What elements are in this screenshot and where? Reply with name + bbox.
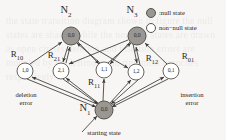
column-label-n3-text: N: [126, 4, 134, 15]
figure-canvas: the state transition diagram shown in fi…: [0, 0, 226, 140]
annotation-insertion-error-line1: insertion: [180, 91, 203, 99]
edge-label-r01: R01: [182, 52, 194, 63]
edge-label-r10-sub: 10: [17, 54, 23, 61]
edge-label-r21-sub: 21: [54, 55, 60, 62]
node-label-bottom-start: 0,0: [101, 107, 108, 113]
annotation-insertion-error: insertion error: [180, 91, 203, 108]
legend-non-null-state-label: non−null state: [159, 25, 197, 32]
edge-topright-to-mid4: [133, 44, 137, 63]
diagram-graphics: [0, 0, 226, 140]
node-group: [17, 27, 179, 119]
column-label-n1-text: N: [79, 102, 87, 113]
edge-bottom-to-mid3: [103, 79, 104, 101]
column-label-n3: N3: [126, 5, 137, 18]
annotation-starting-state: starting state: [87, 129, 121, 137]
edge-label-r21: R21: [48, 51, 60, 62]
edge-label-r11: R11: [88, 78, 100, 89]
edge-topright-to-mid3: [110, 42, 130, 64]
column-label-n3-sub: 3: [134, 11, 138, 19]
edge-bottom-to-mid5: [112, 77, 164, 105]
column-label-n1: N1: [79, 103, 90, 116]
edge-label-r01-sub: 01: [188, 56, 194, 63]
node-label-mid-2: 2,1: [58, 68, 65, 74]
edge-label-r12-sub: 12: [152, 58, 158, 65]
edge-label-r12: R12: [146, 54, 158, 65]
annotation-deletion-error-line1: deletion: [15, 91, 36, 99]
edge-label-r10: R10: [11, 50, 23, 61]
node-label-mid-1: 1,0: [22, 68, 29, 74]
legend-non-null-state-icon: [146, 23, 156, 33]
column-label-n1-sub: 1: [87, 109, 91, 117]
edge-mid5-to-bottom: [112, 79, 168, 107]
annotation-deletion-error: deletion error: [15, 91, 36, 108]
column-label-n2-sub: 2: [68, 11, 72, 19]
edge-label-r11-sub: 11: [94, 82, 100, 89]
column-label-n2-text: N: [60, 4, 68, 15]
node-label-mid-4: 1,2: [133, 69, 140, 75]
node-label-mid-3: 1,1: [101, 67, 108, 73]
annotation-starting-state-line1: starting state: [87, 129, 121, 137]
legend-null-state-label: :null state: [159, 10, 185, 17]
node-label-top-right: 0,0: [134, 33, 141, 39]
node-label-top-left: 0,0: [68, 33, 75, 39]
annotation-deletion-error-line2: error: [15, 99, 36, 107]
legend-null-state-icon: [146, 8, 156, 18]
column-label-n2: N2: [60, 5, 71, 18]
node-label-mid-5: 0,1: [168, 68, 175, 74]
annotation-insertion-error-line2: error: [180, 99, 203, 107]
